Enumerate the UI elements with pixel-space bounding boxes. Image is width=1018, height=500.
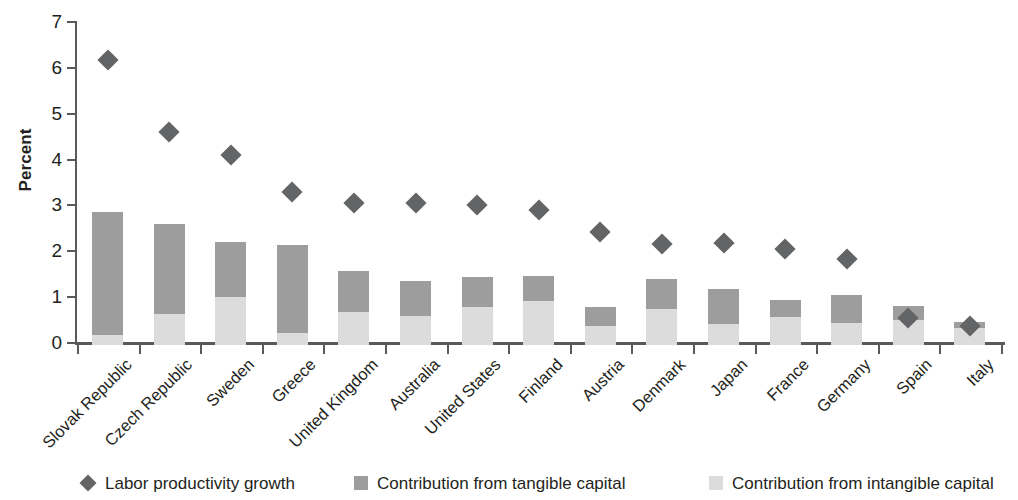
x-axis-tick	[878, 345, 880, 354]
bar-stack-france	[770, 2, 801, 345]
bar-segment-intangible	[215, 297, 246, 345]
x-axis-label: Spain	[893, 355, 936, 398]
diamond-marker-icon	[80, 475, 97, 492]
x-axis-tick	[693, 345, 695, 354]
bar-segment-tangible	[92, 212, 123, 335]
x-axis-label: Italy	[963, 355, 998, 390]
bar-segment-intangible	[770, 317, 801, 345]
bar-segment-tangible	[154, 224, 185, 313]
bar-segment-tangible	[338, 271, 369, 312]
bar-segment-intangible	[400, 316, 431, 345]
bar-stack-japan	[708, 2, 739, 345]
bar-segment-tangible	[770, 300, 801, 317]
x-axis-tick	[385, 345, 387, 354]
legend-label: Contribution from tangible capital	[377, 475, 626, 492]
bar-segment-intangible	[338, 312, 369, 345]
bar-segment-intangible	[154, 314, 185, 345]
x-axis-tick	[447, 345, 449, 354]
x-axis-tick	[570, 345, 572, 354]
bar-segment-intangible	[277, 333, 308, 345]
bar-segment-intangible	[462, 307, 493, 345]
bar-stack-denmark	[646, 2, 677, 345]
bar-stack-czech-republic	[154, 2, 185, 345]
x-axis-label: France	[763, 355, 813, 405]
bar-segment-tangible	[523, 276, 554, 302]
x-axis-label: Denmark	[628, 355, 689, 416]
bar-stack-united-kingdom	[338, 2, 369, 345]
x-axis-tick	[755, 345, 757, 354]
bar-segment-tangible	[215, 242, 246, 297]
x-axis-label: Sweden	[202, 355, 258, 411]
bar-segment-intangible	[585, 326, 616, 345]
bar-stack-australia	[400, 2, 431, 345]
bar-segment-tangible	[462, 277, 493, 308]
bar-segment-tangible	[585, 307, 616, 325]
legend-item: Labor productivity growth	[82, 471, 295, 495]
x-axis-tick	[262, 345, 264, 354]
bar-segment-tangible	[708, 289, 739, 324]
x-axis-tick	[139, 345, 141, 354]
plot-area	[0, 0, 1018, 345]
bar-segment-intangible	[92, 335, 123, 345]
x-axis-tick	[939, 345, 941, 354]
x-axis-tick	[323, 345, 325, 354]
x-axis-tick	[816, 345, 818, 354]
legend-label: Labor productivity growth	[105, 475, 295, 492]
x-axis-tick	[1001, 345, 1003, 354]
bar-segment-intangible	[523, 301, 554, 345]
x-axis-label: Japan	[706, 355, 751, 400]
bar-segment-intangible	[708, 324, 739, 345]
bar-segment-tangible	[277, 245, 308, 333]
x-axis-tick	[200, 345, 202, 354]
bar-stack-germany	[831, 2, 862, 345]
bar-segment-intangible	[831, 323, 862, 345]
chart-figure: Percent 01234567 Slovak RepublicCzech Re…	[0, 0, 1018, 500]
x-axis-label: Germany	[813, 355, 874, 416]
x-axis-tick	[631, 345, 633, 354]
bar-stack-italy	[954, 2, 985, 345]
square-swatch-icon	[354, 476, 368, 490]
legend-label: Contribution from intangible capital	[732, 475, 994, 492]
legend-item: Contribution from intangible capital	[709, 471, 994, 495]
bar-stack-finland	[523, 2, 554, 345]
bar-stack-spain	[893, 2, 924, 345]
bar-segment-intangible	[646, 309, 677, 345]
bar-segment-tangible	[646, 279, 677, 310]
x-axis-label: Australia	[384, 355, 443, 414]
x-axis-label: Finland	[515, 355, 567, 407]
bar-stack-united-states	[462, 2, 493, 345]
bar-segment-tangible	[400, 281, 431, 316]
square-swatch-icon	[709, 476, 723, 490]
bar-segment-tangible	[831, 295, 862, 323]
x-axis-tick	[508, 345, 510, 354]
x-axis-label: Austria	[578, 355, 628, 405]
bar-stack-austria	[585, 2, 616, 345]
chart-legend: Labor productivity growthContribution fr…	[0, 471, 1018, 497]
x-axis-label: Greece	[268, 355, 320, 407]
x-axis-tick	[77, 345, 79, 354]
bar-stack-sweden	[215, 2, 246, 345]
legend-item: Contribution from tangible capital	[354, 471, 626, 495]
bar-stack-greece	[277, 2, 308, 345]
